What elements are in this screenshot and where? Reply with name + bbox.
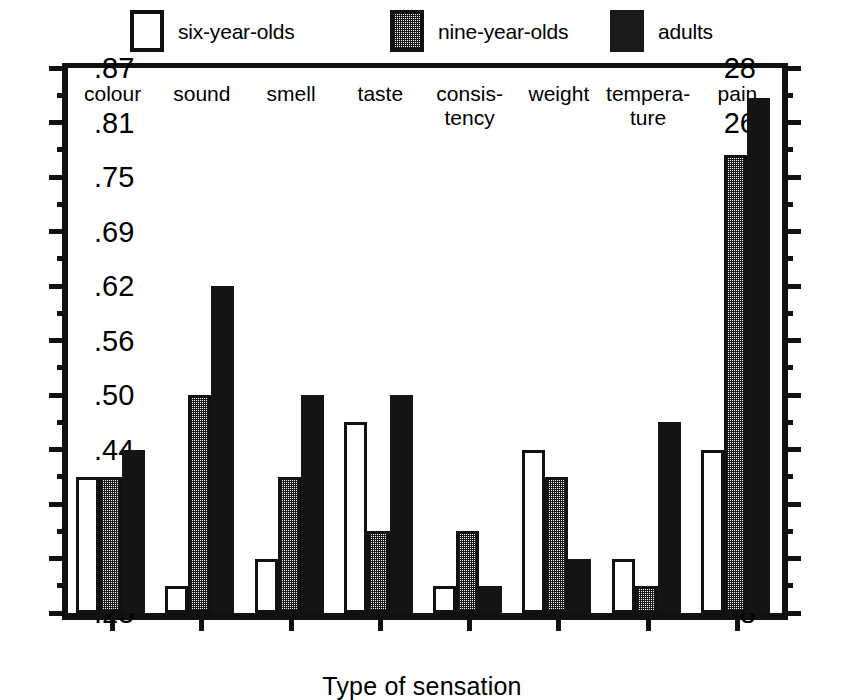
bar [701, 450, 724, 614]
right-axis-major-tick [782, 447, 801, 452]
right-axis-minor-tick [782, 420, 793, 425]
left-axis-major-tick [49, 556, 68, 561]
right-axis-major-tick [782, 66, 801, 71]
legend-label: six-year-olds [178, 21, 294, 42]
x-axis-title: Type of sensation [0, 672, 844, 700]
bar [612, 559, 635, 614]
x-axis-tick [199, 618, 204, 631]
legend-swatch-icon [610, 10, 644, 52]
left-axis-major-tick [49, 66, 68, 71]
left-axis-minor-tick [57, 202, 68, 207]
x-axis-label: tempera- ture [606, 82, 690, 129]
left-axis-major-tick [49, 229, 68, 234]
right-axis-major-tick [782, 175, 801, 180]
x-axis-label: weight [529, 82, 590, 106]
right-axis-minor-tick [782, 93, 793, 98]
bar [545, 477, 568, 613]
left-axis-major-tick [49, 393, 68, 398]
bar [390, 395, 413, 613]
bar [165, 586, 188, 613]
legend-swatch-icon [130, 10, 164, 52]
bar-group [522, 68, 591, 613]
legend-label: adults [658, 21, 713, 42]
bar [188, 395, 211, 613]
right-axis-minor-tick [782, 583, 793, 588]
bar [635, 586, 658, 613]
left-axis-minor-tick [57, 583, 68, 588]
right-axis-tick-label: .56 [94, 327, 134, 356]
left-axis-major-tick [49, 175, 68, 180]
bar-group [701, 68, 770, 613]
x-axis-tick [646, 618, 651, 631]
bar-group [344, 68, 413, 613]
bar [211, 286, 234, 613]
left-axis-minor-tick [57, 93, 68, 98]
right-axis-tick-label: .62 [94, 272, 134, 301]
right-axis-major-tick [782, 229, 801, 234]
bar [99, 477, 122, 613]
x-axis-tick [556, 618, 561, 631]
right-axis-major-tick [782, 502, 801, 507]
x-axis-label: smell [267, 82, 316, 106]
right-axis-minor-tick [782, 256, 793, 261]
left-axis-minor-tick [57, 474, 68, 479]
bar-group [612, 68, 681, 613]
legend-item-adults: adults [610, 8, 713, 54]
bar [479, 586, 502, 613]
left-axis-minor-tick [57, 147, 68, 152]
left-axis-major-tick [49, 338, 68, 343]
bar [255, 559, 278, 614]
bar [301, 395, 324, 613]
legend-swatch-icon [390, 10, 424, 52]
legend-item-six-year-olds: six-year-olds [130, 8, 294, 54]
right-axis-minor-tick [782, 311, 793, 316]
left-axis-minor-tick [57, 365, 68, 370]
bar [724, 155, 747, 613]
right-axis-major-tick [782, 556, 801, 561]
left-axis-major-tick [49, 284, 68, 289]
bar-group [255, 68, 324, 613]
bar [522, 450, 545, 614]
bar [367, 531, 390, 613]
right-axis-major-tick [782, 284, 801, 289]
x-axis-label: taste [358, 82, 404, 106]
left-axis-minor-tick [57, 529, 68, 534]
right-axis-minor-tick [782, 529, 793, 534]
x-axis-tick [467, 618, 472, 631]
right-axis-major-tick [782, 611, 801, 616]
bar [568, 559, 591, 614]
left-axis-major-tick [49, 447, 68, 452]
left-axis-major-tick [49, 120, 68, 125]
bar [76, 477, 99, 613]
x-axis-label: sound [173, 82, 230, 106]
x-axis-label: colour [84, 82, 141, 106]
left-axis-minor-tick [57, 420, 68, 425]
plot-area: coloursoundsmelltasteconsis- tencyweight… [62, 63, 788, 620]
right-axis-major-tick [782, 393, 801, 398]
left-axis-major-tick [49, 502, 68, 507]
legend-label: nine-year-olds [438, 21, 568, 42]
right-axis-tick-label: .69 [94, 218, 134, 247]
bar-group [433, 68, 502, 613]
left-axis-minor-tick [57, 311, 68, 316]
right-axis-major-tick [782, 120, 801, 125]
left-axis-major-tick [49, 611, 68, 616]
bar [747, 98, 770, 613]
bar-group [165, 68, 234, 613]
legend-item-nine-year-olds: nine-year-olds [390, 8, 568, 54]
bars-container [68, 68, 782, 613]
right-axis-tick-label: .75 [94, 163, 134, 192]
right-axis-minor-tick [782, 365, 793, 370]
x-axis-tick [378, 618, 383, 631]
bar-chart-figure: six-year-oldsnine-year-oldsadults colour… [0, 0, 844, 700]
left-axis-tick-label: 28 [724, 54, 756, 83]
right-axis-tick-label: .50 [94, 381, 134, 410]
bar [278, 477, 301, 613]
bar [456, 531, 479, 613]
x-axis-tick [289, 618, 294, 631]
right-axis-tick-label: .87 [94, 54, 134, 83]
bar [433, 586, 456, 613]
right-axis-major-tick [782, 338, 801, 343]
x-axis-label: consis- tency [436, 82, 503, 129]
chart-legend: six-year-oldsnine-year-oldsadults [0, 0, 844, 58]
